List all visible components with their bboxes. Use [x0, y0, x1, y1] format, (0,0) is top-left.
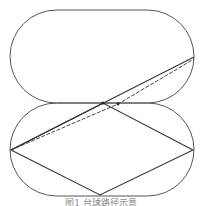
reflection-point-marker [101, 101, 104, 104]
rhombus-path [11, 103, 193, 195]
reflection-point-marker [117, 103, 120, 106]
top-stadium-table [10, 10, 194, 103]
figure-caption: 图1 台球路径示意 [0, 198, 202, 206]
bottom-stadium-table [10, 103, 194, 196]
billiard-path-diagram [0, 0, 202, 206]
